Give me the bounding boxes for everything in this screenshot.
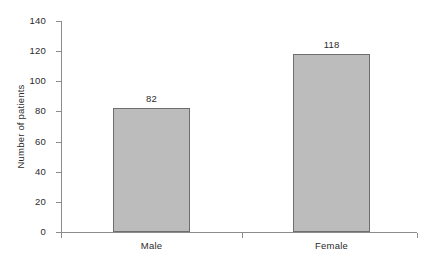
x-axis-tick-middle	[242, 233, 243, 238]
x-axis-line	[61, 232, 417, 233]
y-axis-tick	[56, 142, 61, 143]
y-axis-tick	[56, 81, 61, 82]
x-axis-category-label: Female	[315, 241, 348, 251]
y-axis-tick-label: 140	[0, 16, 46, 26]
y-axis-tick	[56, 202, 61, 203]
bar-chart: Number of patients 020406080100120140 82…	[0, 0, 431, 261]
y-axis-tick-label: 40	[0, 167, 46, 177]
y-axis-line	[61, 21, 62, 232]
y-axis-tick	[56, 51, 61, 52]
x-axis-category-label: Male	[141, 241, 162, 251]
x-axis-tick-left	[61, 233, 62, 238]
y-axis-tick-label: 0	[0, 227, 46, 237]
bar-value-label: 82	[146, 94, 157, 104]
y-axis-tick-label: 80	[0, 106, 46, 116]
y-axis-tick-label: 100	[0, 76, 46, 86]
y-axis-tick	[56, 21, 61, 22]
x-axis-tick-right	[417, 233, 418, 238]
y-axis-tick	[56, 172, 61, 173]
y-axis-tick-label: 120	[0, 46, 46, 56]
y-axis-tick-label: 20	[0, 197, 46, 207]
y-axis-tick	[56, 111, 61, 112]
bar[interactable]	[293, 54, 370, 232]
bar[interactable]	[113, 108, 190, 232]
bar-value-label: 118	[324, 40, 340, 50]
y-axis-tick-label: 60	[0, 137, 46, 147]
